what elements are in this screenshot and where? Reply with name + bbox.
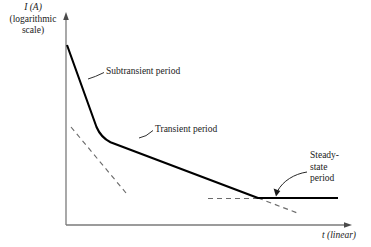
subtransient-period-label: Subtransient period [106,66,180,78]
steady-state-label-line2: state [310,162,368,174]
x-axis-label: t (linear) [322,230,356,242]
steady-state-period-label: Steady- state period [310,150,368,185]
steady-state-label-line1: Steady- [310,150,368,162]
y-axis-label-line3: scale) [0,25,66,37]
y-axis-label-line1: I (A) [0,2,66,14]
y-axis-label-line2: (logarithmic [0,14,66,26]
transient-period-label: Transient period [155,124,217,136]
y-axis-label: I (A) (logarithmic scale) [0,2,66,37]
steady-state-label-line3: period [310,173,368,185]
